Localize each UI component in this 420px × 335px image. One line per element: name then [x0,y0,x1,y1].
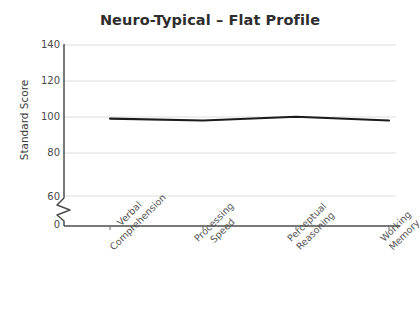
x-tick-label-perceptual-reasoning: Perceptual Reasoning [285,200,338,253]
x-tick-label-verbal-comprehension: Verbal Comprehension [99,183,169,253]
x-tick-label-processing-speed: Processing Speed [192,200,245,253]
chart-figure: Neuro-Typical – Flat Profile Standard Sc… [0,0,420,335]
x-axis-tick-labels: Verbal Comprehension Processing Speed Pe… [0,0,420,335]
x-tick-label-working-memory: Working Memory [378,209,420,254]
